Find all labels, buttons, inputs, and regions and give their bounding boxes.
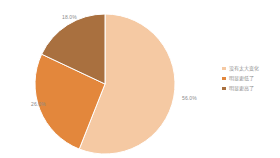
pie-slice-group [35,14,175,154]
chart-legend: 没有太大变化 明显更低了 明显更高了 [222,64,280,94]
slice-value-label: 56.0% [182,95,197,101]
legend-swatch-icon [222,77,226,81]
slice-value-label: 18.0% [62,14,77,20]
legend-item[interactable]: 明显更低了 [222,74,280,83]
pie-plot-area: 56.0% 26.0% 18.0% [0,0,215,158]
pie-chart: 56.0% 26.0% 18.0% 没有太大变化 明显更低了 明显更高了 [0,0,280,158]
legend-item-label: 明显更低了 [229,76,254,81]
pie-svg [0,0,215,158]
legend-item[interactable]: 没有太大变化 [222,64,280,73]
legend-item[interactable]: 明显更高了 [222,84,280,93]
legend-item-label: 没有太大变化 [229,66,259,71]
legend-item-label: 明显更高了 [229,86,254,91]
legend-swatch-icon [222,67,226,71]
slice-value-label: 26.0% [31,101,46,107]
legend-swatch-icon [222,87,226,91]
